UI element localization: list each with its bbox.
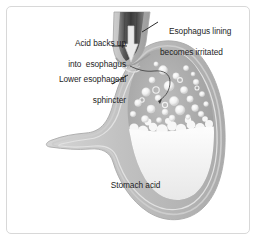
label-lower-esophageal-sphincter: Lower esophageal sphincter	[10, 64, 126, 126]
label-les-line2: sphincter	[10, 95, 126, 105]
label-esophagus-lining: Esophagus lining becomes irritated	[160, 16, 252, 78]
label-les-line1: Lower esophageal	[59, 74, 126, 84]
label-esophagus-lining-line2: becomes irritated	[160, 47, 252, 57]
illustration-root: Acid backs up into esophagus Lower esoph…	[0, 0, 257, 241]
label-stomach-acid-line1: Stomach acid	[111, 180, 161, 190]
label-esophagus-lining-line1: Esophagus lining	[169, 26, 231, 36]
label-acid-backs-up-line1: Acid backs up	[75, 38, 126, 48]
label-stomach-acid: Stomach acid	[96, 170, 166, 201]
